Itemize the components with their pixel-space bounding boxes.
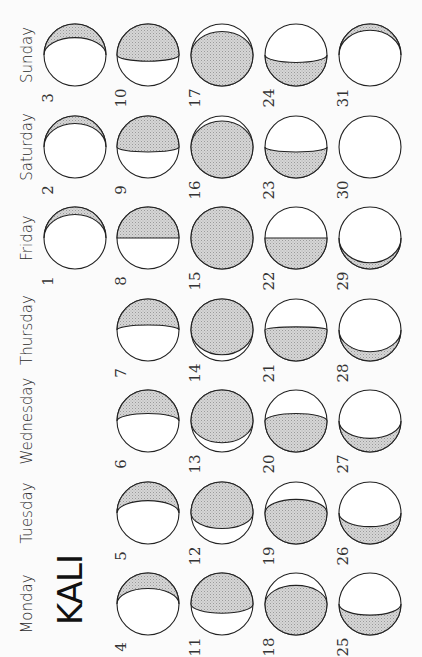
moon-calendar: SundaySaturdayFridayThursdayWednesdayTue…	[0, 0, 422, 657]
moon-shade-icon	[191, 31, 253, 86]
moon-shade-icon	[265, 585, 327, 635]
moon-day-14: 14	[186, 299, 253, 383]
moon-shade-icon	[117, 24, 179, 61]
moon-day-4: 4	[112, 573, 179, 652]
date-number: 11	[186, 637, 204, 656]
weekday-label-thursday: Thursday	[18, 295, 36, 365]
date-number: 27	[334, 454, 352, 473]
moon-shade-icon	[191, 207, 253, 269]
moon-shade-icon	[265, 147, 327, 178]
moon-day-20: 20	[260, 390, 327, 474]
date-number: 1	[39, 276, 57, 286]
calendar-title-group: KALI	[50, 555, 90, 625]
date-number: 7	[112, 368, 130, 378]
moon-shade-icon	[265, 238, 327, 269]
moon-day-12: 12	[186, 482, 253, 566]
date-number: 25	[334, 637, 352, 656]
moon-day-10: 10	[112, 24, 179, 108]
date-number: 15	[186, 271, 204, 290]
date-number: 14	[186, 363, 204, 382]
moon-day-24: 24	[260, 24, 327, 108]
moon-day-11: 11	[186, 573, 253, 657]
moon-day-2: 2	[39, 116, 106, 195]
date-number: 19	[260, 546, 278, 565]
moon-day-5: 5	[112, 482, 179, 561]
moon-day-8: 8	[112, 207, 179, 286]
moon-grid: 1234567891011121314151617181920212223242…	[39, 24, 401, 657]
date-number: 18	[260, 637, 278, 656]
weekday-label-sunday: Sunday	[18, 27, 36, 83]
moon-shade-icon	[191, 482, 253, 529]
moon-day-25: 25	[334, 573, 401, 657]
moon-day-30: 30	[334, 116, 401, 200]
moon-day-9: 9	[112, 116, 179, 195]
moon-day-21: 21	[260, 299, 327, 383]
moon-day-19: 19	[260, 482, 327, 566]
date-number: 17	[186, 88, 204, 107]
date-number: 23	[260, 180, 278, 199]
moon-day-6: 6	[112, 390, 179, 469]
moon-shade-icon	[117, 116, 179, 152]
moon-outline-icon	[339, 116, 401, 178]
moon-shade-icon	[191, 573, 253, 613]
moon-day-31: 31	[334, 24, 401, 108]
moon-day-3: 3	[39, 24, 106, 103]
moon-shade-icon	[117, 207, 179, 238]
date-number: 24	[260, 88, 278, 107]
date-number: 26	[334, 546, 352, 565]
date-number: 2	[39, 185, 57, 195]
moon-day-7: 7	[112, 299, 179, 378]
moon-day-1: 1	[39, 207, 106, 286]
date-number: 9	[112, 185, 130, 195]
date-number: 29	[334, 271, 352, 290]
weekday-label-friday: Friday	[18, 215, 36, 261]
moon-day-13: 13	[186, 390, 253, 474]
date-number: 5	[112, 551, 130, 561]
moon-shade-icon	[191, 299, 253, 355]
moon-day-22: 22	[260, 207, 327, 291]
weekday-label-wednesday: Wednesday	[18, 377, 36, 464]
moon-day-15: 15	[186, 207, 253, 291]
moon-day-17: 17	[186, 24, 253, 108]
moon-shade-icon	[191, 390, 253, 443]
date-number: 22	[260, 271, 278, 290]
date-number: 10	[112, 88, 130, 107]
date-number: 6	[112, 459, 130, 469]
calendar-title: KALI	[50, 555, 90, 625]
weekday-labels: SundaySaturdayFridayThursdayWednesdayTue…	[18, 27, 36, 634]
date-number: 21	[260, 363, 278, 382]
moon-day-18: 18	[260, 573, 327, 657]
date-number: 20	[260, 454, 278, 473]
date-number: 12	[186, 546, 204, 565]
weekday-label-monday: Monday	[18, 574, 36, 633]
weekday-label-saturday: Saturday	[18, 113, 36, 181]
moon-shade-icon	[265, 499, 327, 544]
moon-shade-icon	[265, 327, 327, 361]
moon-day-26: 26	[334, 482, 401, 566]
moon-shade-icon	[117, 299, 179, 330]
moon-day-27: 27	[334, 390, 401, 474]
date-number: 8	[112, 276, 130, 286]
weekday-label-tuesday: Tuesday	[18, 482, 36, 543]
date-number: 4	[112, 642, 130, 652]
date-number: 31	[334, 88, 352, 107]
date-number: 28	[334, 363, 352, 382]
date-number: 16	[186, 180, 204, 199]
date-number: 13	[186, 454, 204, 473]
moon-day-29: 29	[334, 207, 401, 291]
moon-day-16: 16	[186, 116, 253, 200]
moon-shade-icon	[265, 414, 327, 452]
moon-day-28: 28	[334, 299, 401, 383]
date-number: 3	[39, 93, 57, 103]
date-number: 30	[334, 180, 352, 199]
moon-day-23: 23	[260, 116, 327, 200]
moon-shade-icon	[191, 121, 253, 178]
